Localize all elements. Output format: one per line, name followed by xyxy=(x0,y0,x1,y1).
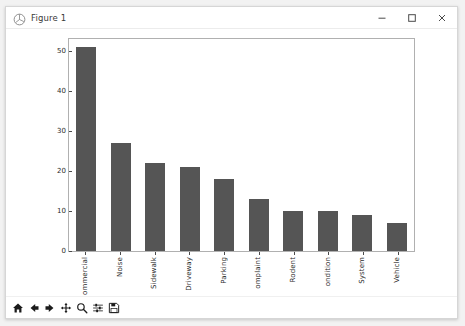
x-axis-tick-label: System xyxy=(359,257,366,284)
x-axis-tick-label: Sidewalk xyxy=(151,257,158,289)
figure-canvas[interactable]: 01020304050 ommercialNoiseSidewalkDrivew… xyxy=(6,29,457,296)
x-axis-tick-mark xyxy=(259,252,260,255)
window-title: Figure 1 xyxy=(31,13,367,23)
y-axis-tick-mark xyxy=(69,171,72,172)
x-tick-slot: ondition xyxy=(311,252,346,296)
x-axis-tick-mark xyxy=(155,252,156,255)
y-axis-tick-mark xyxy=(69,51,72,52)
x-tick-slot: Rodent xyxy=(276,252,311,296)
bar xyxy=(214,179,234,251)
bar-slot xyxy=(69,39,104,251)
x-tick-slot: omplaint xyxy=(242,252,277,296)
y-axis-tick-label: 50 xyxy=(57,47,66,54)
x-axis-tick-mark xyxy=(328,252,329,255)
save-button[interactable] xyxy=(106,300,121,316)
close-button[interactable] xyxy=(427,7,457,28)
bar-slot xyxy=(104,39,139,251)
x-tick-slot: Sidewalk xyxy=(137,252,172,296)
x-axis-tick-mark xyxy=(363,252,364,255)
x-tick-slot: System xyxy=(346,252,381,296)
bar-slot xyxy=(138,39,173,251)
maximize-button[interactable] xyxy=(397,7,427,28)
back-button[interactable] xyxy=(26,300,41,316)
y-axis-tick-mark xyxy=(69,211,72,212)
pan-button[interactable] xyxy=(58,300,73,316)
bar xyxy=(180,167,200,251)
x-tick-slot: Parking xyxy=(207,252,242,296)
forward-button[interactable] xyxy=(42,300,57,316)
matplotlib-figure-icon xyxy=(13,11,26,24)
bar-slot xyxy=(242,39,277,251)
bar xyxy=(145,163,165,251)
bar xyxy=(318,211,338,251)
minimize-button[interactable] xyxy=(367,7,397,28)
y-axis-tick-mark xyxy=(69,131,72,132)
x-axis-tick-mark xyxy=(120,252,121,255)
bar-slot xyxy=(311,39,346,251)
y-axis-tick-label: 0 xyxy=(62,247,66,254)
bar xyxy=(249,199,269,251)
x-axis-tick-label: omplaint xyxy=(255,257,262,289)
y-axis-tick-label: 40 xyxy=(57,87,66,94)
x-tick-slot: Noise xyxy=(103,252,138,296)
configure-subplots-button[interactable] xyxy=(90,300,105,316)
x-axis-tick-mark xyxy=(398,252,399,255)
x-axis-tick-label: Driveway xyxy=(186,257,193,291)
x-tick-slot: Vehicle xyxy=(380,252,415,296)
y-axis-tick-label: 30 xyxy=(57,127,66,134)
bar xyxy=(352,215,372,251)
bar xyxy=(76,47,96,251)
zoom-button[interactable] xyxy=(74,300,89,316)
home-button[interactable] xyxy=(10,300,25,316)
bar-slot xyxy=(207,39,242,251)
x-axis-tick-label: Parking xyxy=(221,257,228,284)
x-axis-tick-label: Rodent xyxy=(290,257,297,282)
x-axis-tick-mark xyxy=(224,252,225,255)
bar-slot xyxy=(380,39,415,251)
navigation-toolbar xyxy=(6,296,457,318)
x-tick-slot: ommercial xyxy=(68,252,103,296)
x-tick-slot: Driveway xyxy=(172,252,207,296)
bar xyxy=(111,143,131,251)
x-axis-tick-label: ondition xyxy=(325,257,332,286)
bar xyxy=(387,223,407,251)
figure-window: Figure 1 01020304050 ommercialNoiseSidew… xyxy=(5,6,458,319)
title-bar: Figure 1 xyxy=(6,7,457,29)
x-axis-tick-label: Vehicle xyxy=(394,257,401,283)
x-axis-tick-mark xyxy=(294,252,295,255)
bar xyxy=(283,211,303,251)
x-axis-tick-label: ommercial xyxy=(82,257,89,295)
bar-slot xyxy=(173,39,208,251)
bar-slot xyxy=(345,39,380,251)
y-axis-tick-mark xyxy=(69,91,72,92)
y-axis-tick-label: 10 xyxy=(57,207,66,214)
x-axis-tick-label: Noise xyxy=(117,257,124,277)
bar-slot xyxy=(276,39,311,251)
chart-axes: 01020304050 xyxy=(68,38,415,252)
bar-plot-area xyxy=(69,39,414,251)
y-axis-tick-label: 20 xyxy=(57,167,66,174)
x-axis-tick-mark xyxy=(189,252,190,255)
x-axis-tick-labels: ommercialNoiseSidewalkDrivewayParkingomp… xyxy=(68,252,415,296)
x-axis-tick-mark xyxy=(85,252,86,255)
